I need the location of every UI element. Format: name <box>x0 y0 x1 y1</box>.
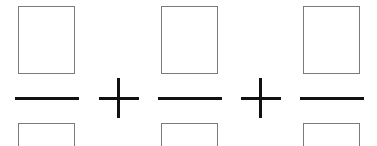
numerator-box-2[interactable] <box>161 6 218 74</box>
numerator-box-1[interactable] <box>18 6 75 74</box>
numerator-box-3[interactable] <box>303 6 360 74</box>
fraction-bar-2 <box>158 97 222 100</box>
denominator-box-3[interactable] <box>303 123 360 146</box>
fraction-bar-1 <box>15 97 79 100</box>
denominator-box-2[interactable] <box>161 123 218 146</box>
plus-icon-1: + <box>99 78 139 118</box>
denominator-box-1[interactable] <box>18 123 75 146</box>
plus-icon-2: + <box>241 78 281 118</box>
fraction-bar-3 <box>300 97 364 100</box>
